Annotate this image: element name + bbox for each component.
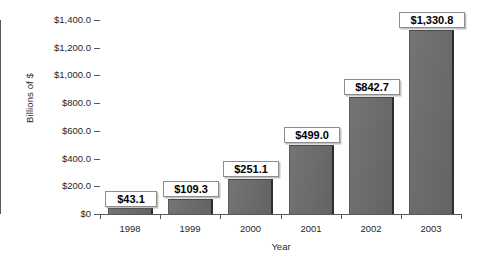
y-tick-mark <box>94 75 100 76</box>
value-label-2001: $499.0 <box>284 127 340 143</box>
y-axis-line <box>0 20 1 214</box>
bar-chart-figure: Billions of $ $1,400.0 $1,200.0 $1,000.0… <box>0 0 489 266</box>
x-cat-label-1999: 1999 <box>160 222 220 236</box>
y-tick-1400: $1,400.0 <box>0 20 100 21</box>
y-tick-label: $200.0 <box>62 179 91 192</box>
x-cat-label-2000: 2000 <box>220 222 281 236</box>
bar-2000 <box>228 179 273 214</box>
y-axis-title: Billions of $ <box>20 48 40 148</box>
y-tick-label: $1,000.0 <box>54 68 91 81</box>
x-cat-label-2001: 2001 <box>281 222 341 236</box>
y-tick-label: $400.0 <box>62 152 91 165</box>
y-tick-1000: $1,000.0 <box>0 75 100 76</box>
x-cat-label-2002: 2002 <box>341 222 401 236</box>
y-tick-mark <box>94 48 100 49</box>
x-tick-mark <box>160 214 161 219</box>
y-tick-mark <box>94 186 100 187</box>
bar-2002 <box>349 97 394 214</box>
value-label-1999: $109.3 <box>163 181 219 197</box>
y-tick-0: $0 <box>0 214 100 215</box>
x-tick-mark <box>461 214 462 219</box>
x-tick-mark <box>100 214 101 219</box>
y-tick-label: $600.0 <box>62 124 91 137</box>
y-tick-1200: $1,200.0 <box>0 48 100 49</box>
y-tick-label: $1,400.0 <box>54 13 91 26</box>
x-cat-label-1998: 1998 <box>100 222 160 236</box>
x-tick-mark <box>401 214 402 219</box>
y-tick-mark <box>94 131 100 132</box>
y-tick-mark <box>94 103 100 104</box>
y-tick-600: $600.0 <box>0 131 100 132</box>
value-label-2002: $842.7 <box>344 79 400 95</box>
y-tick-800: $800.0 <box>0 103 100 104</box>
y-tick-mark <box>94 159 100 160</box>
y-tick-label: $1,200.0 <box>54 41 91 54</box>
y-tick-label: $800.0 <box>62 96 91 109</box>
bar-1999 <box>168 199 213 214</box>
x-cat-label-2003: 2003 <box>401 222 461 236</box>
y-tick-200: $200.0 <box>0 186 100 187</box>
value-label-1998: $43.1 <box>105 191 157 207</box>
x-axis-title: Year <box>100 241 462 252</box>
value-label-2003: $1,330.8 <box>399 12 465 28</box>
x-tick-mark <box>220 214 221 219</box>
bar-1998 <box>108 208 153 214</box>
x-tick-mark <box>341 214 342 219</box>
bar-2001 <box>289 145 334 214</box>
y-tick-label: $0 <box>80 207 91 220</box>
bar-2003 <box>409 30 454 214</box>
y-tick-mark <box>94 20 100 21</box>
value-label-2000: $251.1 <box>223 161 279 177</box>
x-tick-mark <box>281 214 282 219</box>
y-tick-400: $400.0 <box>0 159 100 160</box>
